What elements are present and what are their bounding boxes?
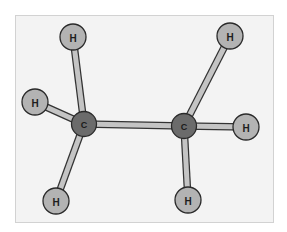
hydrogen-atom-left: H bbox=[22, 89, 48, 115]
carbon-atom-right: C bbox=[172, 114, 197, 139]
atom-label: H bbox=[69, 33, 76, 44]
atom-label: C bbox=[181, 122, 188, 132]
atom-label: H bbox=[184, 196, 191, 207]
hydrogen-atom-top-right: H bbox=[217, 23, 243, 49]
hydrogen-atom-bottom-right: H bbox=[175, 187, 201, 213]
hydrogen-atom-right: H bbox=[233, 114, 259, 140]
atom-label: H bbox=[31, 98, 38, 109]
ethane-diagram: H H H H H H C C bbox=[0, 0, 287, 232]
carbon-atom-left: C bbox=[72, 112, 97, 137]
hydrogen-atom-top-left: H bbox=[60, 24, 86, 50]
bonds bbox=[35, 36, 246, 201]
atom-label: C bbox=[81, 120, 88, 130]
atom-label: H bbox=[242, 123, 249, 134]
hydrogen-atom-bottom-left: H bbox=[43, 188, 69, 214]
bond-c2-h4 bbox=[184, 36, 230, 126]
atom-label: H bbox=[52, 197, 59, 208]
atom-label: H bbox=[226, 32, 233, 43]
bond-c1-c2 bbox=[84, 124, 184, 126]
